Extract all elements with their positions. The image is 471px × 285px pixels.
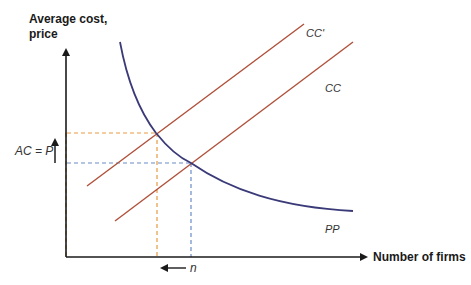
pp-curve	[120, 42, 353, 211]
cc-prime-line	[87, 24, 304, 186]
pp-label: PP	[325, 223, 340, 235]
cc-prime-label: CC'	[306, 27, 324, 39]
cc-line	[115, 42, 353, 221]
orange-guide-lines	[66, 133, 157, 257]
y-axis-label-line1: Average cost,	[29, 12, 107, 27]
diagram-canvas: Average cost, price Number of firms AC =…	[0, 0, 471, 285]
n-label: n	[190, 261, 197, 275]
cc-label: CC	[325, 82, 341, 94]
y-axis-label: Average cost, price	[29, 12, 107, 42]
x-axis-label: Number of firms	[373, 250, 466, 265]
ac-equals-p-label: AC = P	[15, 144, 53, 158]
y-axis-label-line2: price	[29, 27, 107, 42]
diagram-svg	[0, 0, 471, 285]
